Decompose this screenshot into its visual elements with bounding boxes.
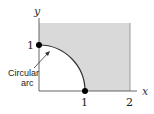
annotation-line1: Circular bbox=[8, 68, 39, 78]
x-axis-label: x bbox=[142, 85, 149, 98]
point-0-1 bbox=[36, 42, 42, 48]
y-axis-label: y bbox=[33, 5, 41, 18]
point-1-0 bbox=[82, 88, 88, 94]
x-tick-2: 2 bbox=[126, 96, 133, 109]
diagram-canvas: y x 1 1 2 Circular arc bbox=[0, 0, 154, 114]
x-tick-1: 1 bbox=[81, 96, 88, 109]
y-tick-1: 1 bbox=[27, 39, 34, 52]
annotation-line2: arc bbox=[21, 78, 34, 88]
